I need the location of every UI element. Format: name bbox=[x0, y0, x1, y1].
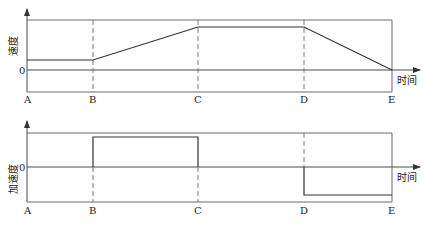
velocity-chart: 速度 0 时间 A B C D E bbox=[7, 9, 420, 105]
acceleration-point-c: C bbox=[194, 205, 202, 216]
acceleration-negative-segment bbox=[304, 167, 392, 195]
velocity-point-c: C bbox=[194, 94, 202, 105]
velocity-point-a: A bbox=[23, 94, 32, 105]
acceleration-point-d: D bbox=[300, 205, 308, 216]
velocity-point-e: E bbox=[388, 94, 395, 105]
acceleration-x-label: 时间 bbox=[397, 171, 417, 183]
acceleration-zero-label: 0 bbox=[19, 162, 25, 173]
velocity-point-d: D bbox=[300, 94, 308, 105]
acceleration-point-e: E bbox=[388, 205, 395, 216]
velocity-y-label: 速度 bbox=[7, 36, 19, 56]
acceleration-chart: 加速度 0 时间 A B C D E bbox=[7, 121, 420, 216]
velocity-point-b: B bbox=[89, 94, 96, 105]
acceleration-point-b: B bbox=[89, 205, 96, 216]
motion-diagram: 速度 0 时间 A B C D E 加速度 0 时间 A B C D E bbox=[0, 0, 425, 228]
acceleration-point-a: A bbox=[23, 205, 32, 216]
acceleration-positive-segment bbox=[93, 137, 198, 167]
velocity-x-label: 时间 bbox=[397, 74, 417, 86]
velocity-curve bbox=[27, 27, 392, 70]
velocity-zero-label: 0 bbox=[19, 65, 25, 76]
acceleration-y-label: 加速度 bbox=[7, 164, 19, 194]
